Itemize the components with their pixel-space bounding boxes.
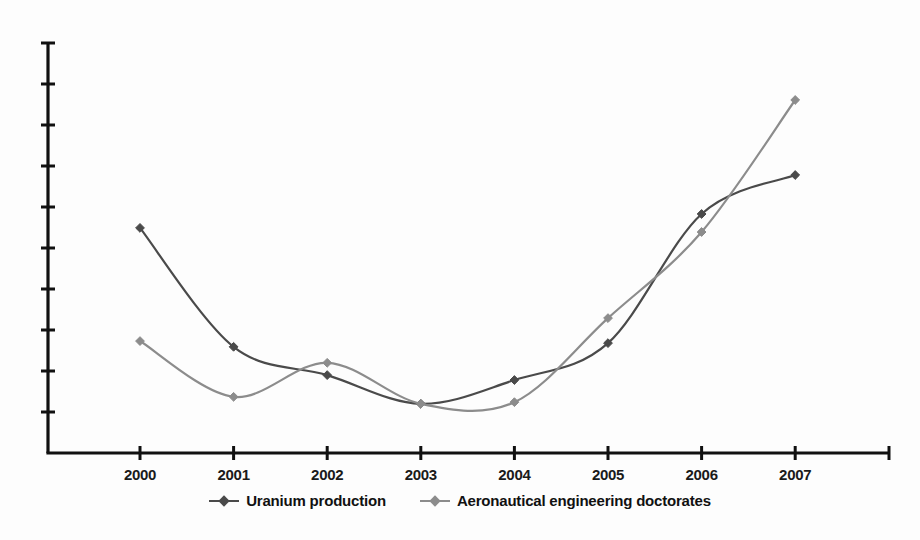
x-tick-label-2004: 2004 — [479, 466, 549, 483]
chart-legend: Uranium productionAeronautical engineeri… — [0, 492, 920, 509]
data-point-marker[interactable] — [416, 399, 425, 408]
line-chart: 20002001200220032004200520062007 Uranium… — [0, 0, 920, 540]
series-1 — [136, 171, 800, 409]
x-tick-label-2002: 2002 — [292, 466, 362, 483]
plot-area — [0, 0, 920, 540]
x-tick-label-2006: 2006 — [667, 466, 737, 483]
series-group — [136, 96, 800, 411]
x-tick-label-2003: 2003 — [386, 466, 456, 483]
data-point-marker[interactable] — [229, 392, 238, 401]
legend-label: Uranium production — [246, 492, 386, 509]
series-line — [140, 100, 795, 411]
x-tick-label-2000: 2000 — [105, 466, 175, 483]
legend-diamond-marker-icon — [219, 495, 230, 506]
legend-diamond-marker-icon — [429, 495, 440, 506]
legend-swatch-icon — [420, 495, 450, 507]
x-tick-label-2005: 2005 — [573, 466, 643, 483]
legend-label: Aeronautical engineering doctorates — [457, 492, 711, 509]
data-point-marker[interactable] — [323, 358, 332, 367]
series-line — [140, 175, 795, 404]
series-2 — [136, 96, 800, 411]
x-tick-label-2001: 2001 — [199, 466, 269, 483]
legend-item-2[interactable]: Aeronautical engineering doctorates — [420, 492, 711, 509]
data-point-marker[interactable] — [510, 398, 519, 407]
data-point-marker[interactable] — [791, 171, 800, 180]
data-point-marker[interactable] — [323, 371, 332, 380]
data-point-marker[interactable] — [510, 376, 519, 385]
legend-swatch-icon — [209, 495, 239, 507]
legend-item-1[interactable]: Uranium production — [209, 492, 386, 509]
x-tick-label-2007: 2007 — [760, 466, 830, 483]
